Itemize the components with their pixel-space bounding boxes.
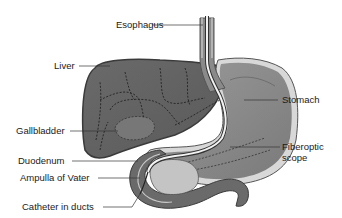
label-stomach: Stomach [282,94,320,105]
label-duodenum: Duodenum [18,155,64,166]
label-liver: Liver [54,60,75,71]
label-ampulla: Ampulla of Vater [20,172,90,183]
anatomy-illustration [0,0,342,218]
label-catheter: Catheter in ducts [22,201,94,212]
diagram-canvas: Esophagus Liver Stomach Gallbladder Fibe… [0,0,342,218]
label-fiberoptic: Fiberoptic [282,141,324,152]
label-esophagus: Esophagus [116,19,164,30]
label-scope: scope [282,152,307,163]
label-gallbladder: Gallbladder [16,125,65,136]
